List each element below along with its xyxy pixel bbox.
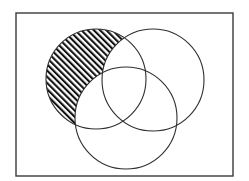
venn-diagram-canvas	[0, 0, 249, 181]
venn-diagram	[0, 0, 249, 181]
